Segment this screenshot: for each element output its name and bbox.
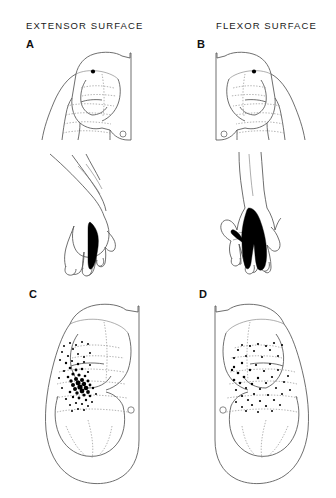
panel-b-hand-diagram [205,150,315,278]
panel-c-limb-diagram [26,300,158,486]
panel-label-c: C [29,288,37,300]
figure-canvas: EXTENSOR SURFACE FLEXOR SURFACE A B C D [0,0,336,498]
shaded-palmar-wedge-b [242,208,267,270]
marker-shoulder-dot-a [91,69,95,73]
marker-olecranon-circle-a [120,131,126,137]
stipple-cluster-d [231,342,291,413]
panel-d-limb-diagram [196,300,328,486]
marker-olecranon-circle-c [128,407,134,413]
shaded-thenar-extension-b [231,230,243,242]
marker-olecranon-circle-d [220,407,226,413]
panel-label-d: D [199,288,207,300]
column-header-flexor: FLEXOR SURFACE [216,20,317,31]
marker-olecranon-circle-b [221,131,227,137]
marker-shoulder-dot-b [252,69,256,73]
panel-a-hand-diagram [42,152,152,277]
stipple-cluster-c [58,341,97,412]
panel-a-limb-diagram [24,44,152,156]
panel-b-limb-diagram [195,44,323,156]
column-header-extensor: EXTENSOR SURFACE [26,20,143,31]
